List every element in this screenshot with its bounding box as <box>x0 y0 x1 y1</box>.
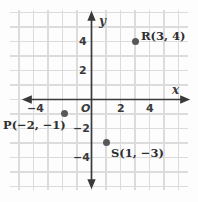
y-axis-arrow-down <box>89 180 95 187</box>
x-axis-letter: x <box>172 84 179 96</box>
coordinate-plane-figure: y x O −4 2 4 4 2 −2 −4 R(3, 4) P(−2, −1)… <box>0 0 198 202</box>
y-axis-letter: y <box>99 15 106 27</box>
x-tick-4: 4 <box>146 103 154 114</box>
y-tick-minus-2: −2 <box>73 123 90 134</box>
origin-label: O <box>81 103 90 114</box>
point-label-s: S(1, −3) <box>111 148 164 160</box>
x-tick-2: 2 <box>117 103 125 114</box>
point-marker-p <box>61 110 68 117</box>
point-label-p: P(−2, −1) <box>3 120 66 132</box>
point-marker-r <box>132 38 139 45</box>
point-marker-s <box>103 139 110 146</box>
x-tick-minus-4: −4 <box>27 103 44 114</box>
point-label-r: R(3, 4) <box>141 31 185 43</box>
y-axis-arrow-up <box>89 13 95 20</box>
y-tick-2: 2 <box>79 65 87 76</box>
y-tick-minus-4: −4 <box>73 152 90 163</box>
y-tick-4: 4 <box>79 36 87 47</box>
x-axis-arrow-right <box>181 97 188 103</box>
